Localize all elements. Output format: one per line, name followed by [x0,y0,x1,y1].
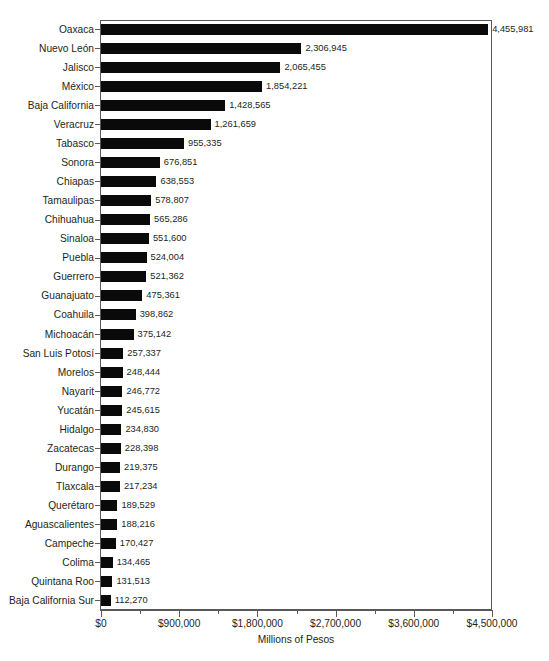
bar-row: Yucatán245,615 [0,401,549,421]
category-label: Tabasco [56,134,94,154]
category-label: Sonora [61,153,94,173]
bar-row: Zacatecas228,398 [0,439,549,459]
x-axis-tick-minor [297,610,298,614]
x-axis-tick-major [101,610,102,617]
bar-row: Tlaxcala217,234 [0,477,549,497]
bar-row: San Luis Potosí257,337 [0,344,549,364]
category-label: Veracruz [54,115,94,135]
bar [101,195,151,206]
category-label: San Luis Potosí [23,344,94,364]
bar [101,62,280,73]
bar [101,233,149,244]
bar-row: México1,854,221 [0,77,549,97]
bar-row: Michoacán375,142 [0,325,549,345]
category-label: Zacatecas [47,439,94,459]
bar-row: Sinaloa551,600 [0,229,549,249]
bar [101,481,120,492]
bar [101,348,123,359]
bar-value-label: 248,444 [127,363,161,383]
bar-value-label: 551,600 [153,229,187,249]
category-label: Aguascalientes [25,515,94,535]
category-label: Colima [62,553,94,573]
bar [101,424,121,435]
bar-chart: Oaxaca4,455,981Nuevo León2,306,945Jalisc… [0,0,549,661]
bar [101,576,112,587]
bar-value-label: 565,286 [154,210,188,230]
bar [101,214,150,225]
category-label: Querétaro [48,496,94,516]
bar-row: Hidalgo234,830 [0,420,549,440]
x-axis-tick-major [414,610,415,617]
chart-title [0,0,549,5]
x-axis-tick-label: $3,600,000 [388,618,439,629]
bar-row: Nayarit246,772 [0,382,549,402]
bar-value-label: 217,234 [124,477,158,497]
bar-row: Nuevo León2,306,945 [0,39,549,59]
x-axis-tick-label: $0 [95,618,106,629]
bar [101,157,160,168]
category-label: Yucatán [57,401,94,421]
bar [101,443,121,454]
bar-rows-container: Oaxaca4,455,981Nuevo León2,306,945Jalisc… [0,20,549,610]
bar-value-label: 112,270 [115,591,148,611]
bar [101,329,134,340]
bar [101,100,225,111]
bar-row: Sonora676,851 [0,153,549,173]
bar [101,138,184,149]
bar-row: Oaxaca4,455,981 [0,20,549,40]
x-axis-tick-label: $900,000 [158,618,201,629]
category-label: Campeche [45,534,94,554]
category-label: Baja California Sur [9,591,94,611]
bar-row: Chiapas638,553 [0,172,549,192]
bar-row: Coahuila398,862 [0,305,549,325]
bar [101,81,262,92]
category-label: Nuevo León [39,39,94,59]
bar [101,405,122,416]
category-label: Tlaxcala [56,477,94,497]
bar-value-label: 955,335 [188,134,222,154]
bar-row: Veracruz1,261,659 [0,115,549,135]
bar-row: Puebla524,004 [0,248,549,268]
bar [101,176,156,187]
bar [101,386,122,397]
bar-row: Guerrero521,362 [0,267,549,287]
bar-value-label: 676,851 [164,153,198,173]
bar [101,290,142,301]
bar [101,595,111,606]
bar-row: Colima134,465 [0,553,549,573]
bar [101,309,136,320]
bar-value-label: 257,337 [127,344,161,364]
x-axis-tick-major [179,610,180,617]
bar [101,43,301,54]
bar-value-label: 1,854,221 [266,77,307,97]
bar-row: Tabasco955,335 [0,134,549,154]
bar-value-label: 524,004 [151,248,185,268]
bar-row: Campeche170,427 [0,534,549,554]
bar-row: Chihuahua565,286 [0,210,549,230]
bar-row: Baja California Sur112,270 [0,591,549,611]
bar-row: Durango219,375 [0,458,549,478]
x-axis-tick-minor [453,610,454,614]
bar-value-label: 4,455,981 [492,20,533,40]
x-axis-tick-minor [375,610,376,614]
category-label: Sinaloa [60,229,94,249]
x-axis-tick-label: $2,700,000 [310,618,361,629]
category-label: Morelos [58,363,94,383]
bar-value-label: 228,398 [125,439,159,459]
bar [101,462,120,473]
category-label: Chihuahua [45,210,94,230]
bar-value-label: 578,807 [155,191,189,211]
x-axis-tick-minor [218,610,219,614]
bar-value-label: 375,142 [138,325,172,345]
bar [101,367,123,378]
category-label: México [62,77,94,97]
bar-row: Aguascalientes188,216 [0,515,549,535]
bar-value-label: 475,361 [146,286,180,306]
bar-value-label: 1,428,565 [229,96,270,116]
bar-row: Morelos248,444 [0,363,549,383]
category-label: Puebla [62,248,94,268]
category-label: Chiapas [57,172,94,192]
category-label: Baja California [28,96,94,116]
x-axis-tick-major [492,610,493,617]
category-label: Nayarit [62,382,94,402]
